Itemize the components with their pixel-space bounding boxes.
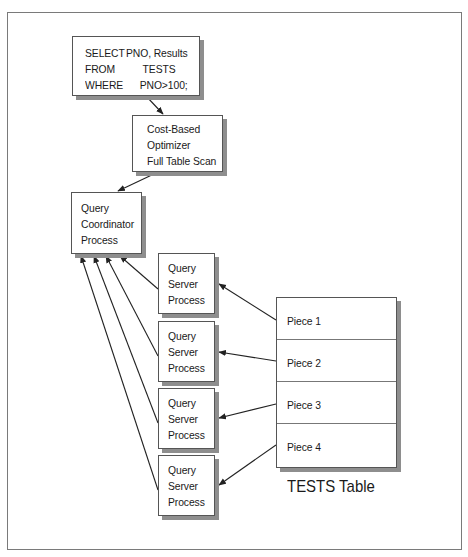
- arrow-piece3-to-server3: [219, 404, 276, 418]
- table-piece-1: Piece 1: [277, 298, 396, 340]
- table-piece-3: Piece 3: [277, 382, 396, 424]
- query-server-box-2: Query Server Process: [158, 321, 215, 382]
- arrow-server2-to-coordinator: [106, 256, 158, 356]
- server-line: Server: [168, 411, 209, 427]
- query-coordinator-box: Query Coordinator Process: [71, 192, 142, 254]
- coordinator-line: Process: [81, 232, 135, 248]
- arrow-piece1-to-server1: [219, 284, 276, 320]
- query-server-box-1: Query Server Process: [158, 253, 215, 314]
- arrow-sql-to-optimizer: [146, 96, 163, 114]
- query-server-box-4: Query Server Process: [158, 455, 215, 516]
- server-line: Process: [168, 292, 209, 308]
- piece-label: Piece 1: [287, 313, 321, 329]
- server-line: Process: [168, 494, 209, 510]
- query-server-box-3: Query Server Process: [158, 388, 215, 449]
- server-line: Server: [168, 478, 209, 494]
- piece-label: Piece 4: [287, 439, 321, 455]
- server-line: Server: [168, 276, 209, 292]
- optimizer-line: Full Table Scan: [147, 153, 215, 169]
- server-line: Process: [168, 360, 209, 376]
- sql-query-box: SELECT PNO, Results FROM TESTS WHERE PNO…: [72, 36, 200, 96]
- sql-keyword: FROM: [85, 61, 143, 77]
- piece-label: Piece 3: [287, 397, 321, 413]
- sql-value: TESTS: [143, 61, 176, 77]
- sql-row-select: SELECT PNO, Results: [85, 45, 188, 61]
- sql-keyword: SELECT: [85, 45, 126, 61]
- sql-value: PNO, Results: [126, 45, 188, 61]
- piece-label: Piece 2: [287, 355, 321, 371]
- arrow-optimizer-to-coordinator: [118, 173, 156, 191]
- optimizer-line: Optimizer: [147, 137, 215, 153]
- optimizer-box: Cost-Based Optimizer Full Table Scan: [132, 115, 223, 172]
- arrow-piece4-to-server4: [219, 445, 276, 485]
- sql-value: PNO>100;: [140, 77, 188, 93]
- server-line: Query: [168, 328, 209, 344]
- tests-table: Piece 1 Piece 2 Piece 3 Piece 4: [276, 297, 397, 468]
- server-line: Process: [168, 427, 209, 443]
- coordinator-line: Query: [81, 200, 135, 216]
- arrow-server1-to-coordinator: [120, 256, 158, 289]
- sql-row-where: WHERE PNO>100;: [85, 77, 188, 93]
- coordinator-line: Coordinator: [81, 216, 135, 232]
- arrow-piece2-to-server2: [219, 352, 276, 361]
- table-piece-4: Piece 4: [277, 424, 396, 466]
- server-line: Server: [168, 344, 209, 360]
- table-piece-2: Piece 2: [277, 340, 396, 382]
- arrows-layer: [0, 0, 468, 557]
- server-line: Query: [168, 260, 209, 276]
- table-caption: TESTS Table: [287, 477, 375, 497]
- arrow-server4-to-coordinator: [81, 256, 158, 490]
- sql-row-from: FROM TESTS: [85, 61, 188, 77]
- server-line: Query: [168, 395, 209, 411]
- optimizer-line: Cost-Based: [147, 121, 215, 137]
- server-line: Query: [168, 462, 209, 478]
- sql-keyword: WHERE: [85, 77, 140, 93]
